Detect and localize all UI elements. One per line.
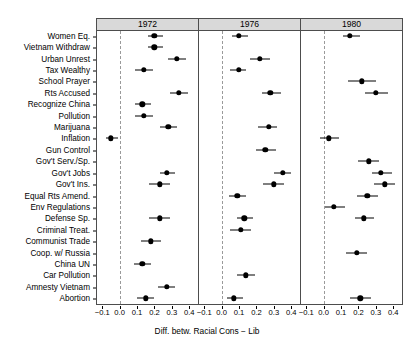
x-axis-1980: −0.10.00.10.20.30.4	[300, 306, 403, 322]
y-axis-label: School Prayer	[39, 78, 90, 86]
y-axis-label: Defense Sp.	[45, 215, 90, 223]
data-point	[358, 296, 363, 301]
panel-strip-1980: 1980	[300, 18, 403, 31]
x-axis-tick-label: −0.1	[299, 309, 314, 317]
panel-strip-1972: 1972	[96, 18, 199, 31]
y-axis-label: Amnesty Vietnam	[26, 284, 90, 292]
data-point	[262, 147, 267, 152]
plot-area-1972	[96, 31, 199, 305]
y-axis-label: Env Regulations	[30, 204, 90, 212]
x-axis-tick-label: 0.1	[336, 309, 347, 317]
data-point	[236, 67, 241, 72]
x-axis-tick-label: 0.4	[184, 309, 195, 317]
data-point	[236, 33, 241, 38]
y-axis-label: Marijuana	[54, 124, 90, 132]
data-point	[176, 90, 181, 95]
y-axis-label: Car Pollution	[43, 272, 90, 280]
y-axis-label: Abortion	[60, 295, 91, 303]
data-point	[359, 79, 364, 84]
data-point	[164, 284, 169, 289]
x-axis-1972: −0.10.00.10.20.30.4	[96, 306, 199, 322]
zero-reference-line	[120, 31, 121, 304]
data-point	[143, 296, 148, 301]
panel-1972: 1972	[96, 18, 199, 305]
data-point	[326, 136, 331, 141]
data-point	[157, 216, 162, 221]
x-axis-tick-label: 0.4	[388, 309, 399, 317]
data-point	[166, 124, 171, 129]
data-point	[354, 250, 359, 255]
data-point	[373, 90, 378, 95]
x-axis-tick-label: 0.1	[132, 309, 143, 317]
data-point	[378, 170, 383, 175]
data-point	[157, 181, 162, 186]
panel-strip-label: 1976	[240, 20, 259, 29]
x-axis-tick-label: 0.2	[353, 309, 364, 317]
y-axis-label: China UN	[55, 261, 91, 269]
data-point	[141, 67, 146, 72]
y-axis-label: Equal Rts Amend.	[24, 192, 90, 200]
data-point	[152, 44, 157, 49]
panel-1976: 1976	[198, 18, 301, 305]
data-point	[268, 90, 273, 95]
data-point	[347, 33, 352, 38]
x-axis-title: Diff. betw. Racial Cons − Lib	[0, 327, 414, 335]
x-axis-tick-label: 0.3	[269, 309, 280, 317]
y-axis-label: Gov't Serv./Sp.	[36, 158, 90, 166]
y-axis-label: Inflation	[61, 135, 90, 143]
x-axis-tick-label: 0.0	[216, 309, 227, 317]
data-point	[164, 170, 169, 175]
data-point	[271, 181, 276, 186]
data-point	[148, 239, 153, 244]
y-axis: Women Eq.Vietnam WithdrawUrban UnrestTax…	[0, 0, 96, 347]
x-axis-tick-label: 0.4	[286, 309, 297, 317]
data-point	[140, 261, 145, 266]
y-axis-label: Urban Unrest	[41, 55, 90, 63]
data-point	[242, 216, 247, 221]
x-axis-tick-label: 0.1	[234, 309, 245, 317]
x-axis-tick-label: 0.2	[251, 309, 262, 317]
x-axis-tick-label: 0.2	[149, 309, 160, 317]
y-axis-label: Communist Trade	[25, 238, 90, 246]
y-axis-label: Recognize China	[28, 101, 90, 109]
y-axis-label: Vietnam Withdraw	[24, 44, 90, 52]
y-axis-label: Gun Control	[46, 147, 90, 155]
data-point	[235, 193, 240, 198]
y-axis-label: Women Eq.	[47, 33, 90, 41]
x-axis-tick-label: −0.1	[95, 309, 110, 317]
y-axis-label: Gov't Jobs	[52, 170, 90, 178]
data-point	[382, 181, 387, 186]
zero-reference-line	[324, 31, 325, 304]
coefficient-dot-plot: Women Eq.Vietnam WithdrawUrban UnrestTax…	[0, 0, 414, 347]
data-point	[141, 113, 146, 118]
x-axis-tick-label: −0.1	[197, 309, 212, 317]
data-point	[331, 204, 336, 209]
y-axis-label: Pollution	[59, 113, 90, 121]
data-point	[266, 124, 271, 129]
panel-strip-1976: 1976	[198, 18, 301, 31]
data-point	[364, 193, 369, 198]
plot-area-1980	[300, 31, 403, 305]
y-axis-label: Gov't Ins.	[56, 181, 90, 189]
x-axis-tick-label: 0.3	[167, 309, 178, 317]
data-point	[361, 216, 366, 221]
data-point	[366, 159, 371, 164]
zero-reference-line	[222, 31, 223, 304]
data-point	[257, 56, 262, 61]
panel-1980: 1980	[300, 18, 403, 305]
data-point	[280, 170, 285, 175]
plot-area-1976	[198, 31, 301, 305]
x-axis-tick-label: 0.0	[318, 309, 329, 317]
x-axis-1976: −0.10.00.10.20.30.4	[198, 306, 301, 322]
data-point	[152, 33, 157, 38]
data-point	[174, 56, 179, 61]
panel-strip-label: 1972	[138, 20, 157, 29]
data-point	[140, 102, 145, 107]
y-axis-label: Criminal Treat.	[37, 227, 90, 235]
y-axis-label: Coop. w/ Russia	[30, 250, 90, 258]
y-axis-label: Tax Wealthy	[46, 67, 90, 75]
y-axis-label: Rts Accused	[44, 90, 90, 98]
x-axis-tick-label: 0.3	[371, 309, 382, 317]
data-point	[231, 296, 236, 301]
data-point	[108, 136, 113, 141]
